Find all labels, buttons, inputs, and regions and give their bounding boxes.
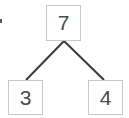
left-edge-artifact-mark	[0, 19, 2, 23]
binary-tree-diagram: 7 3 4	[0, 0, 129, 118]
tree-node-left-child: 3	[8, 80, 43, 115]
tree-node-root: 7	[46, 5, 81, 41]
tree-node-right-child: 4	[88, 80, 123, 115]
tree-node-right-child-label: 4	[100, 87, 112, 109]
tree-node-root-label: 7	[58, 12, 70, 34]
edge-root-to-left	[26, 41, 64, 80]
edge-root-to-right	[64, 41, 104, 80]
tree-node-left-child-label: 3	[20, 87, 32, 109]
